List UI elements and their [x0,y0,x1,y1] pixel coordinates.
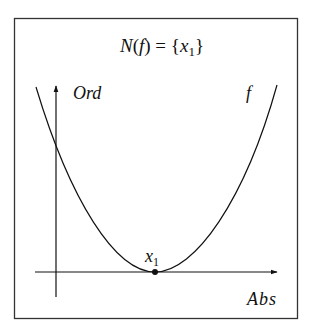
zero-point-marker [152,269,158,275]
y-axis-label: Ord [73,83,102,103]
zero-set-diagram: N(f) = {x1} Ord f x1 Abs [0,0,309,333]
zero-point-label: x1 [144,246,159,269]
parabola-curve [36,85,277,272]
diagram-title: N(f) = {x1} [119,35,204,59]
x-axis-label: Abs [246,289,277,309]
curve-label: f [246,83,254,103]
